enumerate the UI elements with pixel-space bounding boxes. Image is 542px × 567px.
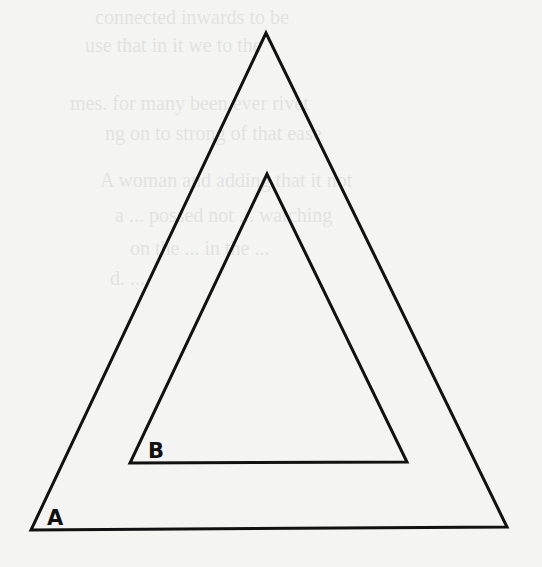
- vertex-label-b: B: [148, 439, 164, 463]
- vertex-label-a: A: [47, 506, 64, 530]
- nested-triangles-diagram: A B: [0, 0, 542, 567]
- inner-triangle-b: [130, 174, 407, 463]
- outer-triangle-a: [31, 33, 507, 530]
